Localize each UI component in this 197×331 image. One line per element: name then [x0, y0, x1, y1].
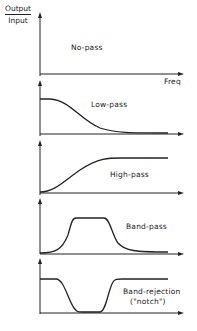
panel-label-low-pass: Low-pass	[91, 100, 127, 109]
y-label-denominator: Input	[5, 15, 31, 25]
y-arrow-icon	[38, 140, 42, 146]
x-arrow-icon	[178, 252, 184, 256]
y-arrow-icon	[38, 198, 42, 204]
panel-label-high-pass: High-pass	[110, 170, 149, 179]
x-arrow-icon	[178, 311, 184, 315]
y-arrow-icon	[38, 12, 42, 18]
x-axis-label: Freq	[164, 77, 181, 86]
panel-label-band-pass: Band-pass	[126, 222, 167, 231]
x-arrow-icon	[178, 132, 184, 136]
panel-sublabel-notch: ("notch")	[130, 297, 166, 306]
panel-label-no-pass: No-pass	[71, 43, 103, 52]
panel-label-band-rejection: Band-rejection	[123, 287, 180, 296]
y-label-numerator: Output	[5, 4, 31, 15]
y-arrow-icon	[38, 258, 42, 264]
y-arrow-icon	[38, 80, 42, 86]
y-axis-label: Output Input	[5, 4, 31, 25]
x-arrow-icon	[178, 191, 184, 195]
x-arrow-icon	[178, 72, 184, 76]
